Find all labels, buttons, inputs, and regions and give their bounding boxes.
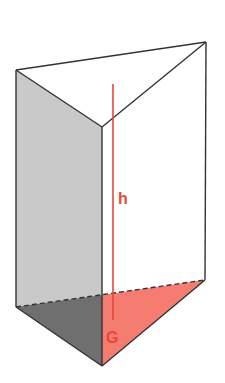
left-face xyxy=(16,70,102,307)
prism-diagram: h G xyxy=(0,0,225,383)
base-label: G xyxy=(106,329,118,346)
height-label: h xyxy=(118,190,128,207)
